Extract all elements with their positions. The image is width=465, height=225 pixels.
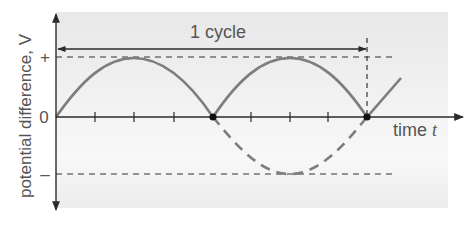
y-tick-positive: + — [40, 48, 50, 67]
y-tick-negative: – — [40, 165, 50, 184]
plot-background — [56, 12, 448, 208]
zero-crossing-dot — [363, 113, 370, 120]
ac-cycle-diagram: potential difference, V + 0 – 1 cycle ti… — [0, 0, 465, 225]
y-axis-label: potential difference, V — [16, 33, 35, 198]
zero-crossing-dot — [209, 113, 216, 120]
cycle-label: 1 cycle — [190, 22, 246, 42]
y-tick-zero: 0 — [39, 108, 48, 127]
x-axis-label: time t — [393, 120, 438, 140]
